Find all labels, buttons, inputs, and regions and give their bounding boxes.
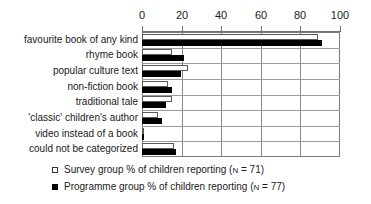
bar-chart: 020406080100 favourite book of any kindr…: [0, 0, 371, 204]
x-axis-tick-label: 80: [294, 9, 306, 21]
category-label: could not be categorized: [0, 143, 138, 154]
category-separator: [142, 63, 340, 64]
category-separator: [142, 141, 340, 142]
category-separator: [142, 79, 340, 80]
category-separator: [142, 95, 340, 96]
category-label: traditional tale: [0, 96, 138, 107]
legend-swatch-programme-icon: [52, 184, 58, 190]
x-axis-tick-label: 40: [215, 9, 227, 21]
legend-label-survey: Survey group % of children reporting (N …: [64, 164, 264, 176]
category-label: rhyme book: [0, 49, 138, 60]
bar-programme: [142, 149, 176, 155]
bar-programme: [142, 118, 162, 124]
legend-item-survey: Survey group % of children reporting (N …: [52, 161, 352, 178]
x-axis-tick: [340, 26, 341, 32]
category-label: favourite book of any kind: [0, 34, 138, 45]
category-label: 'classic' children's author: [0, 112, 138, 123]
category-label: non-fiction book: [0, 81, 138, 92]
category-separator: [142, 110, 340, 111]
bar-programme: [142, 71, 181, 77]
x-axis-tick-label: 60: [255, 9, 267, 21]
category-label: popular culture text: [0, 65, 138, 76]
bar-programme: [142, 134, 144, 140]
chart-legend: Survey group % of children reporting (N …: [52, 161, 352, 195]
x-axis-tick-label: 0: [139, 9, 145, 21]
x-axis-tick-label: 100: [331, 9, 349, 21]
category-separator: [142, 126, 340, 127]
bar-programme: [142, 55, 184, 61]
legend-item-programme: Programme group % of children reporting …: [52, 178, 352, 195]
x-axis-tick-label: 20: [176, 9, 188, 21]
category-label: video instead of a book: [0, 128, 138, 139]
legend-swatch-survey-icon: [52, 167, 58, 173]
bar-programme: [142, 102, 166, 108]
category-separator: [142, 48, 340, 49]
bar-programme: [142, 40, 322, 46]
legend-label-programme: Programme group % of children reporting …: [64, 181, 285, 193]
bar-programme: [142, 87, 172, 93]
